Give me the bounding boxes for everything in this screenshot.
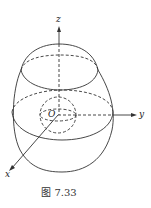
x-axis-label: x [5,170,10,179]
y-arrow-icon [131,113,137,117]
equator-back [12,90,113,112]
figure-caption: 图 7.33 [0,184,118,199]
z-arrow-icon [57,26,61,32]
equator-front [12,112,113,140]
ellipsoid-diagram [0,0,151,208]
cap-ellipse-back [21,55,98,70]
z-axis-label: z [56,15,61,24]
origin-label: O [48,110,55,119]
outer-surface [13,70,113,172]
y-axis-label: y [139,110,144,119]
top-cap [21,44,98,70]
x-axis [12,115,58,168]
cap-ellipse-front [21,70,98,90]
